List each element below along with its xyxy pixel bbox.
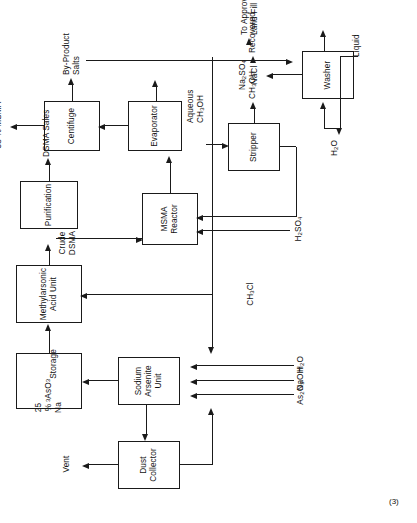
line-arsenite-to-storage [88,380,118,381]
saltcake-label-nacl: NaCl [250,47,260,103]
arrow-byproduct-salts [68,78,74,85]
arrow-reactor-to-evaporator [166,156,172,163]
liquid-label: Liquid [352,13,362,57]
line-washer-water [324,107,325,129]
line-stripper-recycle-up [202,216,296,217]
feed-arrow-h2o [190,364,197,370]
unit-evaporator[interactable]: Evaporator [128,101,182,151]
arrow-dsma-sales [45,158,51,165]
feed-line-as2o3 [196,394,294,395]
line-centrifuge-salts [72,83,73,101]
line-evaporator-to-centrifuge [104,125,128,126]
line-storage-to-maa [49,329,50,353]
unit-washer[interactable]: Washer [302,51,354,99]
arrow-arsenite-to-storage [82,379,89,385]
byproduct-salts-label: By-ProductSalts [62,13,82,75]
feed-line-ch3cl [86,294,212,295]
line-liquid-down [340,56,358,57]
arrow-stripper-recycle [196,215,203,221]
msma-58-label: 58 % MSMA [0,87,4,163]
recycle-arrow-dust [208,408,214,415]
unit-msma-reactor[interactable]: MSMAReactor [142,193,198,245]
vent-label: Vent [62,443,72,485]
bottom-bus-arrow [208,347,214,354]
arrow-arsenite-to-dust [142,434,148,441]
feed-arrow-as2o3 [190,393,197,399]
arrow-aqueous-to-stripper [222,143,229,149]
line-purification-out [49,163,50,181]
line-washer-liquid [324,35,325,51]
unit-methylarsonic-acid-unit[interactable]: MethylarsonicAcid Unit [16,265,82,323]
line-arsenite-to-dust [146,405,147,435]
line-washer-water-back [340,57,341,129]
line-reactor-to-evaporator [170,161,171,193]
arrow-evaporator-to-centrifuge [98,124,105,130]
figure-caption: (3) [389,497,399,506]
arrow-stripper-ch3oh [250,102,256,109]
recycle-line-dust-right [212,413,213,465]
line-maa-out [49,249,50,265]
line-stripper-out [254,107,255,123]
feed-label-ch3cl: CH3Cl [246,271,257,317]
dsma-sales-label: DSMA Sales [42,87,52,157]
arrow-to-land-fill [246,38,252,45]
unit-stripper[interactable]: Stripper [228,123,280,171]
figure-page: DustCollector SodiumArseniteUnit 25 % Na… [0,0,417,523]
feed-arrow-h2so4 [196,229,203,235]
unit-storage[interactable]: 25 % Na3AsO3Storage [16,353,82,409]
crude-dsma-label: CrudeDSMA [58,219,78,267]
bottom-bus-line [212,57,213,347]
saltcake-label-na2so4: Na2SO4 [238,47,249,103]
line-centrifuge-product [16,125,44,126]
feed-arrow-naoh [190,379,197,385]
arrow-58-msma [10,124,17,130]
feed-line-h2so4 [202,230,290,231]
land-fill-label: To ApprovedLand Fill [240,0,260,35]
line-crude-dsma-to-reactor [56,238,142,239]
arrow-washer-liquid [320,30,326,37]
line-washer-saltcake [272,74,302,75]
vent-line [88,464,118,465]
line-stripper-bottom [280,146,296,147]
unit-sodium-arsenite-unit[interactable]: SodiumArseniteUnit [118,357,180,405]
arrow-crude-dsma-to-reactor [136,237,143,243]
arrow-maa-out [45,244,51,251]
line-aqueous-to-stripper [206,144,222,145]
arrow-saltcake [266,73,273,79]
flow-diagram-canvas: DustCollector SodiumArseniteUnit 25 % Na… [0,0,417,523]
unit-dust-collector[interactable]: DustCollector [118,441,180,489]
arrow-salts-to-washer [286,59,293,65]
feed-arrow-ch3cl [80,293,87,299]
line-evaporator-vapour [156,85,157,101]
feed-line-naoh [196,380,294,381]
recycle-line-dust-down [180,464,212,465]
washer-water-label: H2O [330,131,341,165]
line-stripper-recycle [296,147,297,217]
feed-label-h2o: H2O [296,344,307,384]
arrow-aqueous-ch3oh [152,80,158,87]
aqueous-ch3oh-label: AqueousCH3OH [186,57,206,123]
vent-arrow [82,463,89,469]
feed-line-h2o [196,365,294,366]
arrow-storage-to-maa [45,324,51,331]
unit-centrifuge[interactable]: Centifuge [44,101,100,151]
